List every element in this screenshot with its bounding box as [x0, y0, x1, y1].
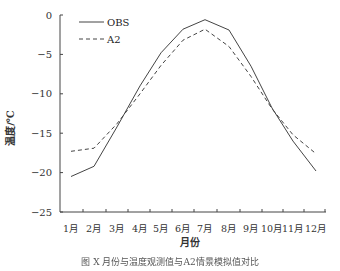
x-tick-label: 6月 [175, 223, 191, 234]
x-tick-label: 3月 [109, 223, 125, 234]
x-tick-label: 5月 [153, 223, 169, 234]
x-tick-label: 4月 [132, 223, 148, 234]
x-tick-label: 7月 [197, 223, 213, 234]
y-tick-label: −20 [31, 167, 52, 178]
x-axis-label: 月份 [179, 236, 201, 248]
figure-caption: 图 X 月份与温度观测值与A2情景模拟值对比 [0, 255, 340, 268]
y-axis-label: 温度/℃ [4, 110, 16, 146]
y-tick-label: −15 [31, 128, 52, 139]
y-tick-label: −5 [37, 49, 52, 60]
x-tick-label: 8月 [221, 223, 237, 234]
legend: OBSA2 [79, 17, 130, 45]
x-tick-label: 12月 [305, 223, 327, 234]
series-a2-line [71, 29, 316, 154]
y-tick-label: −25 [31, 207, 52, 218]
legend-label-a2: A2 [106, 34, 121, 45]
x-tick-label: 10月 [261, 223, 283, 234]
x-tick-label: 11月 [282, 223, 304, 234]
x-tick-label: 1月 [63, 223, 79, 234]
y-tick-label: 0 [46, 10, 52, 21]
x-tick-label: 2月 [86, 223, 102, 234]
line-chart: 0−5−10−15−20−251月2月3月4月5月6月7月8月9月10月11月1… [0, 0, 340, 271]
legend-label-obs: OBS [107, 17, 130, 28]
x-tick-label: 9月 [243, 223, 259, 234]
y-tick-label: −10 [31, 88, 52, 99]
